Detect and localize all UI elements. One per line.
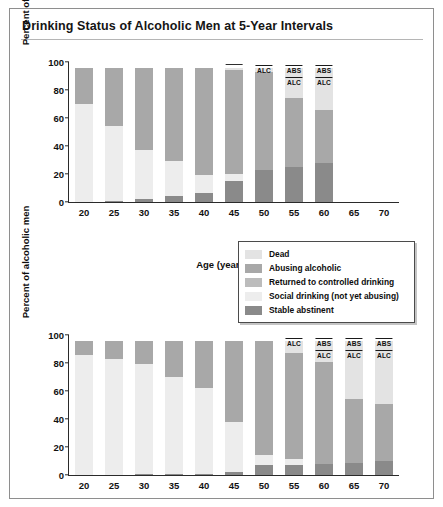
legend-item-label: Abusing alcoholic — [269, 263, 341, 273]
y-axis-label-bottom: Percent of alcoholic men — [20, 197, 34, 327]
stacked-bar — [225, 68, 244, 202]
legend-item: Stable abstinent — [245, 303, 408, 317]
annotation-label-alc: ALC — [285, 77, 302, 86]
y-axis-tick-label: 0 — [59, 470, 64, 481]
legend-item-label: Social drinking (not yet abusing) — [269, 291, 399, 301]
bar-segment — [285, 353, 304, 459]
bar-segment — [315, 163, 334, 202]
bar-segment — [225, 341, 244, 422]
bar-segment — [195, 68, 214, 175]
y-axis-tick-mark — [65, 362, 69, 363]
stacked-bar — [315, 341, 334, 475]
legend-swatch-icon — [245, 306, 262, 315]
bar-segment — [105, 341, 124, 359]
bar-segment — [135, 199, 154, 202]
stacked-bar — [165, 68, 184, 202]
bar-segment — [315, 68, 334, 110]
bar-segment — [75, 355, 94, 475]
chart-panel-bottom: Percent of alcoholic men 020406080100202… — [22, 327, 422, 507]
bar-segment — [105, 68, 124, 127]
stacked-bar — [75, 341, 94, 475]
bar-segment — [135, 150, 154, 199]
bar-segment — [375, 404, 394, 461]
bar-segment — [165, 474, 184, 475]
stacked-bar — [135, 68, 154, 202]
x-axis-tick-label: 40 — [199, 207, 210, 218]
bar-segment — [225, 174, 244, 181]
bar-segment — [285, 167, 304, 202]
legend-item-label: Returned to controlled drinking — [269, 277, 394, 287]
bar-segment — [225, 422, 244, 472]
bar-segment — [165, 68, 184, 162]
bar-segment — [165, 196, 184, 202]
bar-segment — [225, 70, 244, 174]
legend-item-label: Stable abstinent — [269, 305, 334, 315]
legend-swatch-icon — [245, 250, 262, 259]
figure-container: Drinking Status of Alcoholic Men at 5-Ye… — [9, 8, 434, 499]
bar-segment — [345, 463, 364, 475]
y-axis-tick-mark — [65, 145, 69, 146]
x-axis-tick-label: 55 — [289, 480, 300, 491]
stacked-bar — [105, 341, 124, 475]
y-axis-tick-label: 20 — [53, 442, 64, 453]
x-axis-tick-label: 60 — [319, 480, 330, 491]
bar-segment — [105, 201, 124, 202]
plot-area-top: 0204060801002025303540455055606570ALCABS… — [68, 62, 399, 203]
x-axis-tick-label: 55 — [289, 207, 300, 218]
x-axis-tick-label: 50 — [259, 480, 270, 491]
x-axis-tick-label: 30 — [139, 207, 150, 218]
y-axis-tick-label: 100 — [48, 330, 64, 341]
annotation-label-abs: ABS — [375, 338, 392, 347]
bar-segment — [135, 68, 154, 150]
x-axis-tick-label: 25 — [109, 480, 120, 491]
y-axis-tick-label: 100 — [48, 57, 64, 68]
annotation-label-abs: ABS — [315, 65, 332, 74]
stacked-bar — [195, 68, 214, 202]
stacked-bar — [135, 341, 154, 475]
x-axis-tick-label: 50 — [259, 207, 270, 218]
stacked-bar — [285, 341, 304, 475]
y-axis-tick-label: 40 — [53, 414, 64, 425]
x-axis-tick-label: 60 — [319, 207, 330, 218]
x-axis-tick-label: 35 — [169, 207, 180, 218]
annotation-label-alc: ALC — [375, 350, 392, 359]
legend-item: Abusing alcoholic — [245, 261, 408, 275]
x-axis-tick-label: 35 — [169, 480, 180, 491]
legend-swatch-icon — [245, 278, 262, 287]
bar-segment — [315, 110, 334, 163]
bar-segment — [75, 104, 94, 202]
bar-segment — [255, 72, 274, 170]
bar-segment — [345, 399, 364, 463]
x-axis-tick-label: 25 — [109, 207, 120, 218]
stacked-bar — [165, 341, 184, 475]
chart-panel-top: Percent of alcoholic men 020406080100202… — [22, 54, 422, 239]
y-axis-tick-label: 0 — [59, 197, 64, 208]
bar-segment — [255, 170, 274, 202]
y-axis-tick-label: 60 — [53, 386, 64, 397]
annotation-label-abs: ABS — [285, 65, 302, 74]
y-axis-tick-label: 40 — [53, 141, 64, 152]
legend-item: Returned to controlled drinking — [245, 275, 408, 289]
annotation-label-alc: ALC — [315, 350, 332, 359]
y-axis-tick-mark — [65, 61, 69, 62]
y-axis-tick-mark — [65, 418, 69, 419]
y-axis-tick-mark — [65, 474, 69, 475]
bar-segment — [285, 459, 304, 465]
bar-segment — [165, 377, 184, 474]
y-axis-label-top: Percent of alcoholic men — [20, 0, 34, 54]
y-axis-tick-mark — [65, 390, 69, 391]
stacked-bar — [345, 341, 364, 475]
bar-segment — [75, 68, 94, 104]
annotation-label-alc: ALC — [315, 77, 332, 86]
stacked-bar — [105, 68, 124, 202]
title-divider — [21, 39, 423, 40]
y-axis-tick-label: 80 — [53, 85, 64, 96]
bar-segment — [75, 341, 94, 355]
legend-swatch-icon — [245, 264, 262, 273]
bar-segment — [195, 175, 214, 193]
y-axis-tick-mark — [65, 117, 69, 118]
page-title: Drinking Status of Alcoholic Men at 5-Ye… — [22, 19, 333, 33]
x-axis-tick-label: 70 — [379, 207, 390, 218]
bar-segment — [225, 181, 244, 202]
bar-segment — [195, 193, 214, 202]
